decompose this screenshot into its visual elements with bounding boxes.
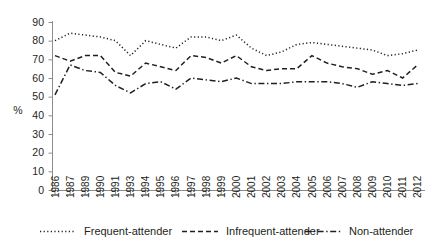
x-tick-label: 1998 <box>201 175 212 198</box>
x-tick-label: 2005 <box>307 175 318 198</box>
x-tick-label: 2010 <box>382 175 393 198</box>
y-tick-label: 20 <box>32 146 44 158</box>
y-tick-label: 50 <box>32 90 44 102</box>
y-tick-marks <box>49 23 53 191</box>
x-tick-label: 2011 <box>397 176 408 198</box>
x-tick-label: 1999 <box>216 175 227 198</box>
x-tick-label: 2012 <box>412 175 423 198</box>
x-tick-label: 1995 <box>155 175 166 198</box>
x-tick-label: 2001 <box>246 175 257 198</box>
y-tick-labels: 0102030405060708090 <box>32 16 44 196</box>
x-tick-label: 1989 <box>80 175 91 198</box>
y-axis-title-group: % <box>13 104 22 116</box>
x-tick-label: 2002 <box>261 175 272 198</box>
y-tick-label: 90 <box>32 16 44 28</box>
x-tick-label: 1990 <box>95 175 106 198</box>
x-tick-label: 2000 <box>231 175 242 198</box>
x-tick-labels: 1986198719891990199119931994199519961997… <box>50 175 424 198</box>
y-axis-title: % <box>13 104 22 116</box>
series-line-non-attender <box>55 65 418 95</box>
x-tick-label: 2008 <box>352 175 363 198</box>
y-tick-label: 80 <box>32 34 44 46</box>
x-tick-label: 1987 <box>65 175 76 198</box>
x-tick-label: 1996 <box>170 175 181 198</box>
y-tick-label: 40 <box>32 109 44 121</box>
x-tick-label: 1997 <box>186 175 197 198</box>
x-tick-label: 2009 <box>367 175 378 198</box>
legend-label-non-attender: Non-attender <box>349 225 414 237</box>
series-line-infrequent-attender <box>55 56 418 78</box>
y-tick-label: 10 <box>32 165 44 177</box>
x-tick-label: 1986 <box>50 175 61 198</box>
x-tick-label: 2007 <box>337 175 348 198</box>
y-tick-label: 0 <box>38 184 44 196</box>
y-tick-label: 70 <box>32 53 44 65</box>
chart-canvas: % 0102030405060708090 198619871989199019… <box>0 0 431 252</box>
series-line-frequent-attender <box>55 33 418 55</box>
x-tick-label: 2003 <box>276 175 287 198</box>
x-tick-label: 1994 <box>140 175 151 198</box>
y-tick-label: 60 <box>32 72 44 84</box>
chart-legend: Frequent-attenderInfrequent-attenderNon-… <box>40 225 414 237</box>
series-lines <box>55 33 418 95</box>
x-tick-label: 2006 <box>322 175 333 198</box>
x-tick-label: 1991 <box>110 175 121 198</box>
x-tick-label: 2004 <box>291 175 302 198</box>
legend-label-frequent-attender: Frequent-attender <box>84 225 172 237</box>
x-tick-label: 1993 <box>125 175 136 198</box>
y-tick-label: 30 <box>32 128 44 140</box>
line-chart: % 0102030405060708090 198619871989199019… <box>0 0 431 252</box>
